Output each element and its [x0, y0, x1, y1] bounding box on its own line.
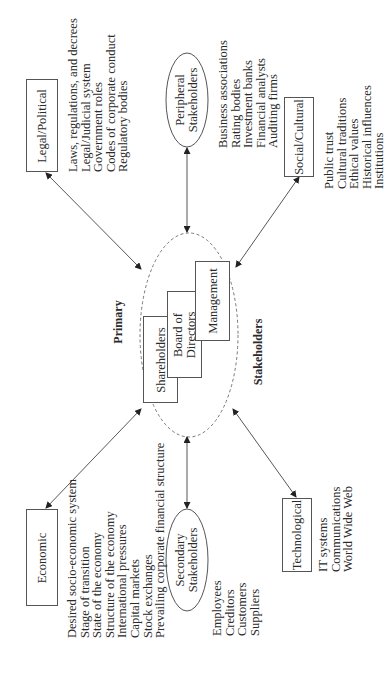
- list-item: Desired socio-economic system: [66, 443, 79, 638]
- list-item: Public trust: [323, 85, 336, 189]
- list-item: World Wide Web: [342, 486, 355, 572]
- connector-technological: [233, 409, 296, 497]
- list-item: State of the economy: [91, 443, 104, 638]
- social-items-list: Public trust Cultural traditions Ethical…: [323, 85, 386, 189]
- secondary-stakeholders-label: Secondary Stakeholders: [174, 528, 200, 593]
- peripheral-line2: Stakeholders: [187, 68, 200, 133]
- list-item: Suppliers: [249, 580, 262, 636]
- list-item: Customers: [236, 580, 249, 636]
- list-item: IT systems: [317, 486, 330, 572]
- connector-legal: [46, 173, 141, 269]
- board-of-directors-label: Board of Directors: [172, 311, 198, 358]
- list-item: Regulatory bodies: [117, 18, 130, 172]
- technological-label: Technological: [290, 500, 304, 571]
- list-item: Business associations: [217, 40, 230, 148]
- economic-box: Economic: [26, 509, 58, 606]
- shareholders-label: Shareholders: [154, 327, 168, 392]
- social-cultural-box: Social/Cultural: [284, 97, 314, 177]
- economic-label: Economic: [35, 532, 49, 583]
- list-item: Employees: [211, 580, 224, 636]
- list-item: Capital markets: [129, 443, 142, 638]
- management-box: Management: [195, 261, 230, 341]
- list-item: Laws, regulations, and decrees: [67, 18, 80, 172]
- list-item: Institutions: [373, 85, 386, 189]
- peripheral-stakeholders-label: Peripheral Stakeholders: [174, 68, 200, 133]
- connector-social: [236, 177, 299, 267]
- legal-political-box: Legal/Political: [26, 79, 58, 172]
- secondary-line2: Stakeholders: [187, 528, 200, 593]
- legal-political-label: Legal/Political: [35, 89, 49, 163]
- stakeholders-label: Stakeholders: [251, 319, 266, 386]
- economic-items-list: Desired socio-economic system Stage of t…: [66, 443, 167, 638]
- secondary-items-list: Employees Creditors Customers Suppliers: [211, 580, 261, 636]
- technological-items-list: IT systems Communications World Wide Web: [317, 486, 355, 572]
- board-line1: Board of: [172, 311, 185, 358]
- technological-box: Technological: [282, 498, 312, 572]
- management-label: Management: [206, 268, 220, 333]
- list-item: Investment banks: [242, 40, 255, 148]
- social-cultural-label: Social/Cultural: [292, 99, 306, 175]
- list-item: Prevailing corporate financial structure: [154, 443, 167, 638]
- primary-label: Primary: [111, 300, 126, 343]
- peripheral-items-list: Business associations Rating bodies Inve…: [217, 40, 280, 148]
- list-item: Auditing firms: [267, 40, 280, 148]
- legal-items-list: Laws, regulations, and decrees Legal/Jud…: [67, 18, 130, 172]
- list-item: Ethical values: [348, 85, 361, 189]
- list-item: Government roles: [92, 18, 105, 172]
